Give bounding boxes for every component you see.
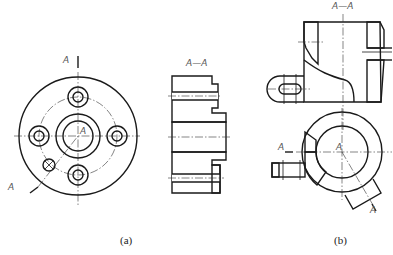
label-b-center: A bbox=[335, 142, 342, 152]
pin-hole bbox=[43, 159, 55, 171]
label-b-bottom-right: A bbox=[369, 205, 376, 215]
label-a-bottom-left: A bbox=[7, 182, 14, 192]
intersection-curve bbox=[304, 60, 354, 102]
figure-b-section-view: A—A bbox=[267, 1, 392, 130]
figure-b-bottom-view: A A A bbox=[272, 108, 392, 215]
lower-section-body bbox=[172, 152, 226, 193]
figure-a-section-view: A—A bbox=[168, 58, 232, 193]
left-wall-section bbox=[304, 22, 318, 64]
caption-a: (a) bbox=[120, 234, 133, 247]
section-title-a: A—A bbox=[185, 58, 207, 68]
label-a-top: A bbox=[62, 55, 69, 65]
cutting-plane-mark-bottom bbox=[30, 187, 38, 193]
label-b-left: A bbox=[277, 142, 284, 152]
section-title-b: A—A bbox=[331, 1, 353, 11]
label-a-center: A bbox=[79, 126, 86, 136]
caption-b: (b) bbox=[334, 234, 347, 247]
right-wall-section bbox=[367, 22, 384, 102]
figure-a-front-view: A A A bbox=[7, 55, 140, 205]
section-hatch-b bbox=[305, 152, 326, 185]
drawing-canvas: A A A A—A A—A bbox=[0, 0, 393, 255]
